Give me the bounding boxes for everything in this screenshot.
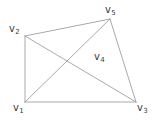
vertex-label-v5: v5 xyxy=(105,5,115,15)
vertex-label-v3: v3 xyxy=(137,103,147,113)
vertex-label-subscript: 5 xyxy=(111,9,115,17)
vertex-label-subscript: 1 xyxy=(19,107,23,115)
graph-canvas xyxy=(0,0,157,122)
vertex-label-v2: v2 xyxy=(9,24,19,34)
vertex-label-v1: v1 xyxy=(13,103,23,113)
edges-group xyxy=(25,19,136,102)
edge-v2-v3 xyxy=(25,36,136,102)
graph-figure: v1v2v3v4v5 xyxy=(0,0,157,122)
vertex-label-v4: v4 xyxy=(94,52,104,62)
edge-v2-v5 xyxy=(25,19,110,36)
vertex-label-subscript: 3 xyxy=(143,107,147,115)
edge-v5-v3 xyxy=(110,19,136,102)
vertex-label-subscript: 2 xyxy=(15,28,19,36)
vertex-label-subscript: 4 xyxy=(100,56,104,64)
